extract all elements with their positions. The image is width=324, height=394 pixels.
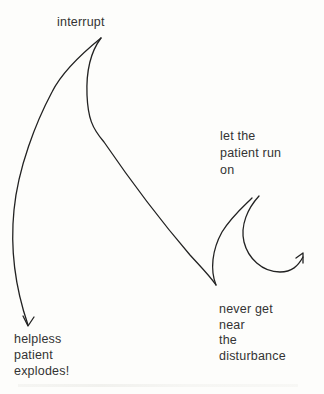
faint-bleed-through	[18, 384, 298, 387]
arrowhead-down-icon	[23, 316, 34, 326]
label-let-patient-run-on: let the patient run on	[220, 128, 281, 179]
label-line: disturbance	[219, 349, 286, 365]
edge-loop-to-right	[243, 196, 303, 272]
label-line: patient run	[220, 145, 281, 162]
label-line: the	[219, 333, 286, 349]
label-line: explodes!	[14, 363, 69, 379]
label-line: let the	[220, 128, 281, 145]
label-helpless-patient-explodes: helpless patient explodes!	[14, 331, 69, 379]
edge-interrupt-to-explodes	[13, 38, 101, 325]
diagram-canvas: interrupt let the patient run on never g…	[0, 0, 324, 394]
label-interrupt: interrupt	[57, 14, 105, 30]
label-line: interrupt	[57, 14, 105, 30]
edge-interrupt-to-disturbance	[87, 38, 216, 285]
label-line: patient	[14, 347, 69, 363]
label-line: on	[220, 162, 281, 179]
label-line: helpless	[14, 331, 69, 347]
label-line: never get	[219, 302, 286, 318]
edge-cusp-up	[213, 198, 252, 285]
label-line: near	[219, 318, 286, 334]
label-never-get-near-disturbance: never get near the disturbance	[219, 302, 286, 364]
